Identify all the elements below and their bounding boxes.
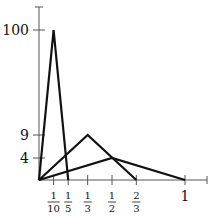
- x-tick-denominator: 10: [47, 203, 60, 214]
- x-tick-numerator: 1: [84, 190, 90, 201]
- chart: 49100 110151312231: [0, 0, 211, 216]
- x-tick-denominator: 2: [109, 203, 115, 214]
- x-tick-denominator: 3: [133, 203, 139, 214]
- x-ticks: 110151312231: [47, 175, 189, 214]
- y-tick-label: 100: [2, 22, 29, 38]
- x-tick-denominator: 3: [84, 203, 90, 214]
- x-tick-numerator: 1: [109, 190, 115, 201]
- series-line-spike-1/3: [39, 135, 136, 180]
- y-tick-label: 9: [20, 127, 29, 143]
- x-tick-numerator: 1: [50, 190, 56, 201]
- x-tick-label: 1: [181, 188, 190, 204]
- x-tick-numerator: 2: [133, 190, 139, 201]
- y-tick-label: 4: [20, 150, 29, 166]
- x-tick-denominator: 5: [65, 203, 71, 214]
- x-tick-numerator: 1: [65, 190, 71, 201]
- series-lines: [39, 30, 185, 180]
